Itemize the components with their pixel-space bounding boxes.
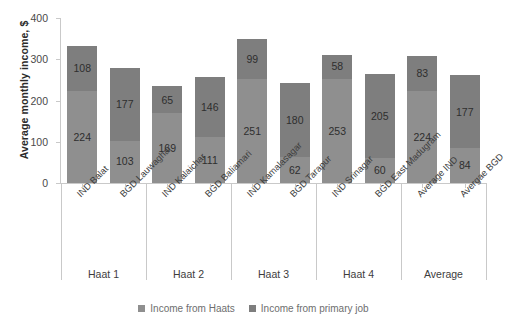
x-tick-mark — [295, 184, 296, 188]
y-tick-label: 400 — [22, 12, 48, 24]
group-separator — [401, 184, 402, 280]
stacked-bar-chart: Average monthly income, $ 0100200300400 … — [0, 0, 507, 328]
x-tick-mark — [380, 184, 381, 188]
bar-5[interactable]: 18062 — [280, 83, 310, 183]
group-label-1: Haat 2 — [146, 268, 231, 280]
x-tick-mark — [422, 184, 423, 188]
x-tick-mark — [252, 184, 253, 188]
bar-value-label: 103 — [116, 156, 134, 167]
bar-segment-primary-job: 99 — [237, 39, 267, 80]
bar-value-label: 99 — [246, 54, 258, 65]
y-tick-label: 100 — [22, 136, 48, 148]
legend-swatch-icon — [138, 305, 145, 312]
chart-legend: Income from HaatsIncome from primary job — [0, 303, 507, 314]
bar-3[interactable]: 146111 — [195, 77, 225, 183]
group-separator — [316, 184, 317, 280]
bar-segment-primary-job: 177 — [450, 75, 480, 148]
bar-value-label: 83 — [416, 68, 428, 79]
bar-2[interactable]: 65169 — [152, 86, 182, 183]
y-tick-mark — [56, 18, 61, 19]
y-tick-mark — [56, 142, 61, 143]
bar-value-label: 205 — [371, 111, 389, 122]
bar-value-label: 108 — [73, 63, 91, 74]
x-tick-mark — [337, 184, 338, 188]
bar-segment-primary-job: 205 — [365, 74, 395, 159]
bar-value-label: 177 — [456, 107, 474, 118]
legend-item-1[interactable]: Income from primary job — [249, 303, 369, 314]
bar-value-label: 146 — [201, 102, 219, 113]
bar-value-label: 177 — [116, 99, 134, 110]
bar-value-label: 224 — [73, 132, 91, 143]
group-label-3: Haat 4 — [316, 268, 401, 280]
bar-0[interactable]: 108224 — [67, 46, 97, 183]
y-tick-label: 200 — [22, 95, 48, 107]
group-separator — [146, 184, 147, 280]
group-label-2: Haat 3 — [231, 268, 316, 280]
y-axis-ticks: 0100200300400 — [18, 0, 48, 180]
x-tick-mark — [125, 184, 126, 188]
y-tick-mark — [56, 183, 61, 184]
bar-segment-haats: 251 — [237, 79, 267, 183]
plot-area: 1082241771036516914611199251180625825320… — [61, 18, 486, 183]
bar-value-label: 251 — [243, 126, 261, 137]
x-tick-mark — [82, 184, 83, 188]
bar-value-label: 65 — [161, 95, 173, 106]
bar-value-label: 84 — [459, 160, 471, 171]
bar-segment-primary-job: 65 — [152, 86, 182, 113]
legend-label: Income from Haats — [150, 303, 234, 314]
bar-segment-primary-job: 146 — [195, 77, 225, 137]
group-separator — [231, 184, 232, 280]
legend-label: Income from primary job — [261, 303, 369, 314]
bar-value-label: 58 — [331, 61, 343, 72]
y-tick-mark — [56, 59, 61, 60]
bar-segment-primary-job: 58 — [322, 55, 352, 79]
bar-value-label: 62 — [289, 165, 301, 176]
group-label-4: Average — [401, 268, 486, 280]
y-tick-label: 300 — [22, 53, 48, 65]
bar-1[interactable]: 177103 — [110, 68, 140, 184]
group-separator — [486, 184, 487, 280]
legend-swatch-icon — [249, 305, 256, 312]
x-tick-mark — [167, 184, 168, 188]
bar-value-label: 180 — [286, 115, 304, 126]
legend-item-0[interactable]: Income from Haats — [138, 303, 234, 314]
bar-value-label: 60 — [374, 165, 386, 176]
bar-segment-primary-job: 108 — [67, 46, 97, 91]
bar-segment-primary-job: 177 — [110, 68, 140, 141]
bar-segment-primary-job: 83 — [407, 56, 437, 90]
group-separator — [61, 184, 62, 280]
x-tick-mark — [465, 184, 466, 188]
x-tick-mark — [210, 184, 211, 188]
y-tick-mark — [56, 101, 61, 102]
bar-segment-haats: 224 — [67, 91, 97, 183]
group-label-0: Haat 1 — [61, 268, 146, 280]
y-tick-label: 0 — [22, 177, 48, 189]
bar-value-label: 253 — [328, 126, 346, 137]
